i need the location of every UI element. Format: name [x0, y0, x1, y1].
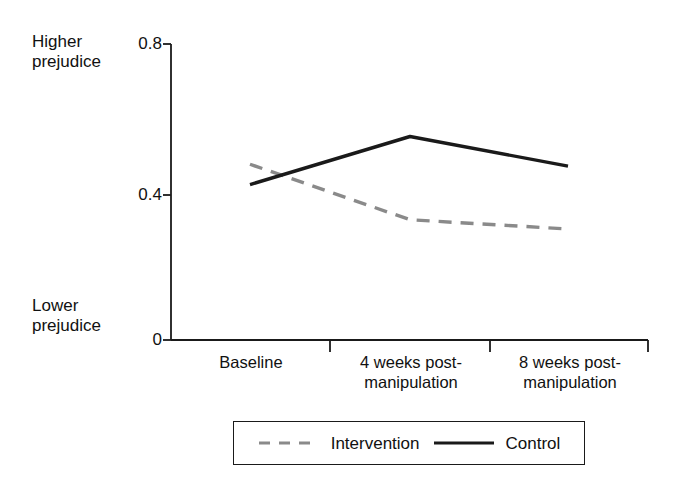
y-tick-label-0: 0	[108, 331, 162, 348]
lower-prejudice-label: Lower prejudice	[32, 296, 101, 336]
x-tick-label-8-weeks: 8 weeks post- manipulation	[492, 352, 648, 392]
legend-entry-control: Control	[433, 435, 561, 452]
x-tick-label-baseline: Baseline	[175, 352, 327, 372]
plot-area	[0, 0, 681, 494]
higher-prejudice-label: Higher prejudice	[32, 32, 101, 72]
solid-line-swatch-icon	[433, 438, 495, 448]
dashed-line-swatch-icon	[258, 438, 320, 448]
legend-label-intervention: Intervention	[331, 435, 420, 452]
legend-row: Intervention Control	[234, 422, 584, 464]
line-chart-figure: Higher prejudice Lower prejudice 0.8 0.4…	[0, 0, 681, 494]
x-tick-label-4-weeks: 4 weeks post- manipulation	[333, 352, 489, 392]
series-line-control	[250, 137, 568, 185]
series-line-intervention	[250, 164, 568, 229]
legend-label-control: Control	[506, 435, 561, 452]
y-tick-label-0.8: 0.8	[108, 35, 162, 52]
y-tick-label-0.4: 0.4	[108, 186, 162, 203]
chart-legend: Intervention Control	[233, 421, 585, 465]
legend-entry-intervention: Intervention	[258, 435, 420, 452]
